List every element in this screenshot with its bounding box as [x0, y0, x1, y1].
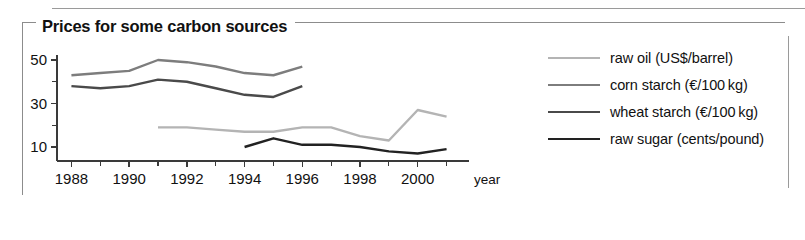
- series-line-raw_oil: [158, 110, 447, 140]
- legend-item-raw_oil: raw oil (US$/barrel): [548, 44, 798, 71]
- x-tick-label: 1988: [55, 170, 88, 187]
- legend-label-raw_sugar: raw sugar (cents/pound): [610, 131, 764, 147]
- y-tick-label: 50: [30, 51, 47, 68]
- legend-item-wheat_starch: wheat starch (€/100 kg): [548, 98, 798, 125]
- legend-item-raw_sugar: raw sugar (cents/pound): [548, 125, 798, 152]
- x-axis-label: year: [474, 172, 501, 187]
- x-tick-label: 1996: [286, 170, 319, 187]
- legend-label-raw_oil: raw oil (US$/barrel): [610, 50, 733, 66]
- x-tick-label: 1994: [228, 170, 261, 187]
- series-line-raw_sugar: [245, 138, 447, 153]
- legend-swatch-raw_oil: [548, 57, 600, 59]
- y-tick-label: 30: [30, 95, 47, 112]
- legend-label-corn_starch: corn starch (€/100 kg): [610, 77, 748, 93]
- chart-legend: raw oil (US$/barrel)corn starch (€/100 k…: [548, 44, 798, 152]
- chart-series: [71, 60, 446, 154]
- series-line-wheat_starch: [71, 80, 302, 97]
- x-tick-label: 1998: [343, 170, 376, 187]
- legend-label-wheat_starch: wheat starch (€/100 kg): [610, 104, 758, 120]
- legend-swatch-raw_sugar: [548, 138, 600, 140]
- legend-swatch-wheat_starch: [548, 111, 600, 113]
- page-right-rule: [788, 36, 789, 188]
- chart-tick-labels: 1030501988199019921994199619982000year: [30, 51, 500, 187]
- series-line-corn_starch: [71, 60, 302, 75]
- x-tick-label: 1990: [112, 170, 145, 187]
- legend-item-corn_starch: corn starch (€/100 kg): [548, 71, 798, 98]
- x-tick-label: 2000: [401, 170, 434, 187]
- x-tick-label: 1992: [170, 170, 203, 187]
- legend-swatch-corn_starch: [548, 84, 600, 86]
- y-tick-label: 10: [30, 138, 47, 155]
